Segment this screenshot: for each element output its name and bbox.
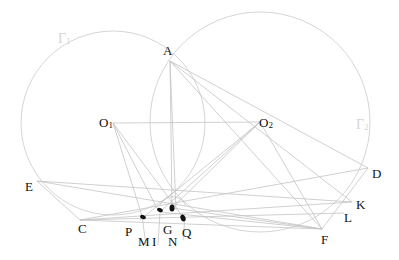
label-M: M (138, 235, 150, 248)
label-N: N (168, 235, 177, 248)
point-Q-dot (179, 214, 186, 222)
label-gamma1: Γ1 (58, 32, 71, 46)
label-L: L (344, 211, 352, 224)
construction-lines (37, 61, 368, 245)
label-Q: Q (182, 226, 191, 239)
point-G-dot (170, 205, 175, 212)
label-D: D (372, 167, 381, 180)
label-O2: O2 (259, 116, 273, 129)
label-E: E (25, 180, 33, 193)
label-gamma2: Γ2 (356, 118, 369, 132)
label-F: F (321, 233, 328, 246)
geometry-diagram: Γ1 Γ2 A O1 O2 E C D K L F P M I G N Q (0, 0, 399, 260)
label-K: K (356, 198, 365, 211)
label-P: P (125, 225, 132, 238)
label-A: A (163, 44, 172, 57)
label-I: I (152, 235, 156, 248)
label-O1: O1 (99, 116, 113, 129)
label-C: C (78, 222, 87, 235)
